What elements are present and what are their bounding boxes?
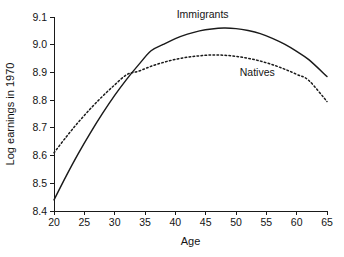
x-tick-label: 45 [200,216,212,228]
series-label-natives: Natives [240,66,275,78]
series-label-immigrants: Immigrants [177,8,229,20]
x-tick-label: 20 [48,216,60,228]
series-line-natives [54,55,327,153]
y-tick-label: 8.5 [32,177,47,189]
x-tick-label: 65 [321,216,333,228]
x-axis-ticks [54,211,327,215]
series-annotations: ImmigrantsNatives [177,8,275,77]
x-tick-label: 60 [291,216,303,228]
y-tick-label: 9.0 [32,38,47,50]
x-tick-label: 50 [230,216,242,228]
series-line-immigrants [54,28,327,200]
y-tick-label: 8.8 [32,94,47,106]
y-tick-label: 8.9 [32,66,47,78]
x-tick-label: 30 [109,216,121,228]
y-axis-title: Log earnings in 1970 [4,63,16,166]
y-tick-label: 8.4 [32,205,47,217]
chart-container: 8.48.58.68.78.88.99.09.1 202530354045505… [0,0,344,257]
x-tick-label: 40 [169,216,181,228]
x-tick-label: 55 [260,216,272,228]
x-axis-tick-labels: 20253035404550556065 [48,216,333,228]
y-axis-ticks [50,17,54,211]
y-tick-label: 8.7 [32,121,47,133]
y-axis-tick-labels: 8.48.58.68.78.88.99.09.1 [32,11,47,217]
series-lines [54,28,327,200]
y-tick-label: 9.1 [32,11,47,23]
line-chart: 8.48.58.68.78.88.99.09.1 202530354045505… [0,0,344,257]
x-tick-label: 25 [78,216,90,228]
x-tick-label: 35 [139,216,151,228]
y-tick-label: 8.6 [32,149,47,161]
x-axis-title: Age [181,235,201,247]
